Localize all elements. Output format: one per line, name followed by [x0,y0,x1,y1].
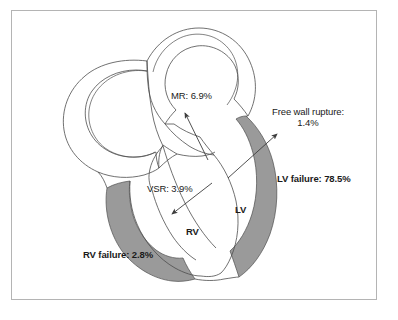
label-free-wall-rupture-line2: 1.4% [263,118,353,129]
label-right-ventricle: RV [186,227,199,238]
label-lv-failure: LV failure: 78.5% [277,174,351,185]
label-free-wall-rupture: Free wall rupture: 1.4% [263,107,353,129]
figure-root: MR: 6.9% Free wall rupture: 1.4% LV fail… [0,0,398,320]
label-mitral-regurgitation: MR: 6.9% [171,91,212,102]
label-rv-failure: RV failure: 2.8% [83,250,153,261]
tricuspid-valve-leaflet [159,145,177,168]
label-free-wall-rupture-line1: Free wall rupture: [272,106,344,117]
heart-cross-section-illustration [0,0,398,320]
cardiac-apex-contour [195,277,239,281]
apex-inner-contour [201,273,221,277]
label-vsr: VSR: 3.9% [147,184,193,195]
mitral-valve-leaflet-anterior [165,124,214,155]
label-left-ventricle: LV [235,205,246,216]
left-atrium-outer-wall [147,28,255,124]
